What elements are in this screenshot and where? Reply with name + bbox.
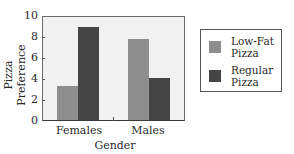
x-axis-label: Gender [85,139,145,152]
legend-item-lowfat: Low-Fat Pizza [209,35,274,59]
y-tick-6: 6 [18,52,38,63]
legend: Low-Fat Pizza Regular Pizza [200,29,282,92]
legend-label-regular-line1: Regular [231,64,273,76]
bar-males-regular [149,78,170,120]
x-category-females: Females [49,124,109,137]
bar-males-lowfat [128,39,149,120]
y-tick-4: 4 [18,73,38,84]
y-tick-mark [42,79,45,80]
y-tick-mark [42,37,45,38]
y-tick-mark [42,100,45,101]
legend-item-regular: Regular Pizza [209,64,273,88]
legend-label-regular-line2: Pizza [231,76,273,88]
bar-females-regular [78,27,99,121]
y-tick-0: 0 [18,115,38,126]
y-tick-2: 2 [18,94,38,105]
y-tick-mark [42,58,45,59]
plot-area [42,16,185,121]
y-tick-8: 8 [18,31,38,42]
y-tick-10: 10 [18,10,38,21]
legend-swatch-lowfat [209,41,221,53]
legend-swatch-regular [209,70,221,82]
bar-females-lowfat [57,86,78,120]
legend-label-lowfat-line2: Pizza [231,47,274,59]
x-category-males: Males [118,124,178,137]
x-tick-mark [113,117,114,121]
legend-label-lowfat-line1: Low-Fat [231,35,274,47]
